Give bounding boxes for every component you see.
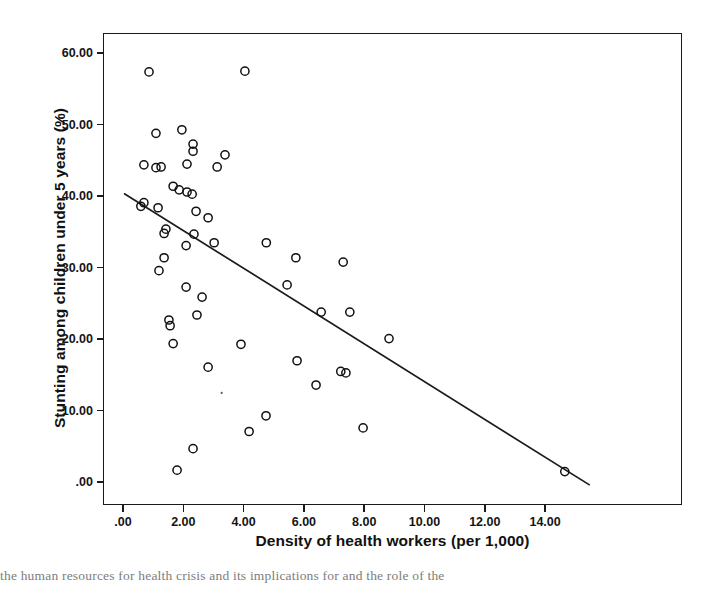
y-tick-label: .00	[41, 475, 93, 489]
y-tick-mark	[97, 267, 103, 269]
y-tick-label: 10.00	[41, 404, 93, 418]
scatter-point	[166, 322, 174, 330]
scatter-plot-figure: Stunting among children under 5 years (%…	[0, 0, 707, 589]
scatter-point	[293, 357, 301, 365]
scatter-point	[189, 445, 197, 453]
scatter-point	[140, 161, 148, 169]
scatter-point	[169, 339, 177, 347]
scatter-point	[385, 334, 393, 342]
scatter-point	[221, 151, 229, 159]
scatter-point	[342, 369, 350, 377]
scatter-canvas	[104, 34, 683, 506]
scatter-point	[160, 254, 168, 262]
y-tick-label: 20.00	[41, 332, 93, 346]
x-tick-mark	[544, 505, 546, 512]
x-tick-mark	[122, 505, 124, 512]
y-tick-label: 30.00	[41, 261, 93, 275]
y-tick-label: 40.00	[41, 189, 93, 203]
x-tick-mark	[363, 505, 365, 512]
scatter-point	[262, 239, 270, 247]
y-tick-label: 60.00	[41, 46, 93, 60]
scatter-point	[165, 316, 173, 324]
data-points	[137, 67, 569, 476]
page-bleed-text: the human resources for health crisis an…	[0, 568, 707, 584]
scatter-point	[245, 427, 253, 435]
scatter-point	[182, 242, 190, 250]
scatter-point	[317, 308, 325, 316]
y-tick-mark	[97, 338, 103, 340]
x-tick-label: 12.00	[469, 515, 500, 529]
x-tick-mark	[243, 505, 245, 512]
fit-line	[124, 193, 590, 485]
y-tick-mark	[97, 410, 103, 412]
scatter-point	[182, 283, 190, 291]
regression-line	[124, 193, 590, 485]
x-tick-mark	[303, 505, 305, 512]
x-tick-label: 10.00	[409, 515, 440, 529]
y-tick-label: 50.00	[41, 118, 93, 132]
scatter-point	[183, 188, 191, 196]
scatter-point	[157, 163, 165, 171]
plot-area	[103, 33, 682, 505]
y-tick-mark	[97, 124, 103, 126]
scatter-point	[192, 207, 200, 215]
scatter-point	[155, 267, 163, 275]
x-tick-label: 14.00	[529, 515, 560, 529]
scatter-point	[213, 163, 221, 171]
y-tick-mark	[97, 195, 103, 197]
scatter-point	[154, 204, 162, 212]
scan-speck	[221, 392, 223, 394]
scatter-point	[173, 466, 181, 474]
x-tick-label: 8.00	[352, 515, 376, 529]
x-axis-title: Density of health workers (per 1,000)	[103, 532, 682, 550]
scatter-point	[241, 67, 249, 75]
scatter-point	[339, 258, 347, 266]
scatter-point	[188, 190, 196, 198]
x-tick-label: 6.00	[292, 515, 316, 529]
x-tick-label: 4.00	[231, 515, 255, 529]
scatter-point	[152, 129, 160, 137]
scatter-point	[283, 281, 291, 289]
scatter-point	[237, 340, 245, 348]
scatter-point	[262, 412, 270, 420]
x-tick-mark	[424, 505, 426, 512]
scatter-point	[204, 363, 212, 371]
scatter-point	[359, 424, 367, 432]
scatter-point	[337, 367, 345, 375]
x-tick-mark	[484, 505, 486, 512]
scatter-point	[198, 293, 206, 301]
scatter-point	[193, 311, 201, 319]
scatter-point	[204, 214, 212, 222]
x-tick-label: 2.00	[171, 515, 195, 529]
scatter-point	[145, 68, 153, 76]
scatter-point	[210, 239, 218, 247]
scatter-point	[346, 308, 354, 316]
y-tick-mark	[97, 52, 103, 54]
y-tick-mark	[97, 481, 103, 483]
scatter-point	[312, 381, 320, 389]
x-tick-label: .00	[114, 515, 131, 529]
scatter-point	[178, 126, 186, 134]
scatter-point	[292, 254, 300, 262]
scatter-point	[183, 160, 191, 168]
x-tick-mark	[183, 505, 185, 512]
